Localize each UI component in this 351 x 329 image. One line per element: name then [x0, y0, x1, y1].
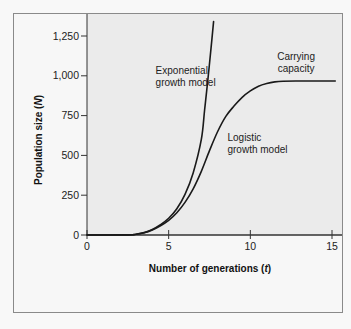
x-axis-title: Number of generations (t)	[149, 263, 271, 274]
y-tick-label: 500	[61, 149, 79, 161]
y-tick-label: 1,000	[53, 69, 79, 81]
x-tick-label: 15	[326, 240, 338, 252]
x-tick-label: 10	[244, 240, 256, 252]
y-tick-label: 750	[61, 109, 79, 121]
y-tick-label: 0	[73, 229, 79, 241]
y-tick-label: 250	[61, 189, 79, 201]
exponential-label: Exponentialgrowth model	[156, 65, 216, 88]
y-tick-label: 1,250	[53, 30, 79, 42]
carrying-capacity-label: Carryingcapacity	[277, 51, 315, 74]
plot-area	[87, 14, 342, 235]
y-axis-title: Population size (N)	[33, 95, 44, 185]
y-axis: 02505007501,0001,250	[53, 14, 87, 241]
x-tick-label: 0	[84, 240, 90, 252]
population-growth-chart: 02505007501,0001,250 051015 Exponentialg…	[0, 0, 351, 329]
x-tick-label: 5	[166, 240, 172, 252]
